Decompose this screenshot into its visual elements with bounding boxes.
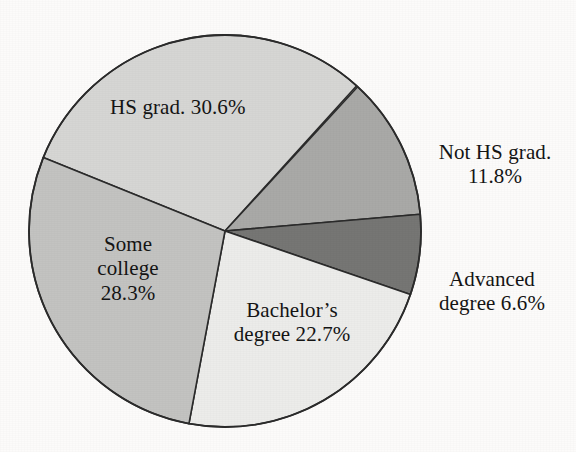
slice-label-advanced-line1: Advanced: [449, 267, 535, 291]
slice-label-advanced-degree: Advanceddegree 6.6%: [414, 267, 570, 316]
slice-label-not-hs-grad: Not HS grad.11.8%: [420, 140, 570, 189]
slice-label-some-college-line1: Some: [104, 232, 152, 256]
slice-label-some-college-line2: college: [97, 256, 158, 280]
slice-label-hs-grad: HS grad. 30.6%: [110, 95, 246, 119]
slice-label-advanced-line2: degree 6.6%: [439, 291, 545, 315]
slice-label-some-college-line3: 28.3%: [101, 281, 156, 305]
slice-label-not-hs-grad-line1: Not HS grad.: [439, 140, 552, 164]
pie-chart-figure: HS grad. 30.6% Not HS grad.11.8% Advance…: [0, 0, 576, 452]
slice-label-bachelors-degree: Bachelor’sdegree 22.7%: [212, 298, 372, 347]
slice-label-not-hs-grad-line2: 11.8%: [468, 164, 522, 188]
slice-label-some-college: Somecollege28.3%: [68, 232, 188, 305]
pie-chart-svg: [0, 0, 576, 452]
pie-slices-group: [29, 35, 421, 427]
slice-label-bachelors-line2: degree 22.7%: [234, 322, 351, 346]
slice-label-bachelors-line1: Bachelor’s: [246, 298, 338, 322]
